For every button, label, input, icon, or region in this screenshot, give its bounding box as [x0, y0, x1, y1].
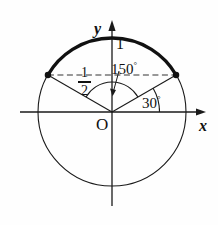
unit-circle-canvas: [0, 0, 218, 225]
angle-150-degree-symbol: °: [134, 60, 138, 70]
arc-endpoint-right-dot: [173, 72, 179, 78]
origin-label: O: [96, 116, 108, 133]
y-axis-arrowhead: [108, 20, 115, 31]
y-axis-label: y: [94, 21, 101, 37]
fraction-numerator: 1: [79, 66, 90, 80]
x-axis-label: x: [199, 118, 207, 134]
angle-150-leader-arrowhead: [110, 89, 116, 97]
fraction-denominator: 2: [79, 84, 90, 98]
half-value-fraction: 1 2: [78, 66, 91, 98]
x-axis-arrowhead: [196, 108, 206, 115]
angle-30-label: 30°: [142, 95, 161, 111]
angle-30-value: 30: [142, 95, 157, 111]
angle-30-degree-symbol: °: [157, 94, 161, 104]
angle-150-value: 150: [111, 61, 134, 77]
angle-150-label: 150°: [111, 61, 137, 77]
radius-value-label: 1: [116, 36, 124, 52]
arc-endpoint-left-dot: [45, 72, 51, 78]
unit-circle-figure: y x O 1 1 2 150° 30°: [0, 0, 218, 225]
